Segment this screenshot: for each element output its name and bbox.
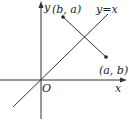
x-axis: [0, 78, 127, 83]
origin-label: O: [42, 82, 51, 95]
coordinate-diagram: y (b, a) y=x (a, b) O x: [0, 0, 129, 129]
y-axis: [39, 1, 44, 119]
line-y-equals-x: [13, 14, 108, 107]
y-axis-arrow-icon: [39, 1, 44, 8]
line-label: y=x: [95, 3, 118, 16]
x-axis-label: x: [115, 82, 122, 95]
point-b-a-label: (b, a): [52, 3, 81, 16]
segment-between-points: [63, 17, 106, 57]
point-a-b: [104, 55, 108, 59]
y-axis-label: y: [43, 1, 51, 14]
point-a-b-label: (a, b): [99, 64, 128, 77]
